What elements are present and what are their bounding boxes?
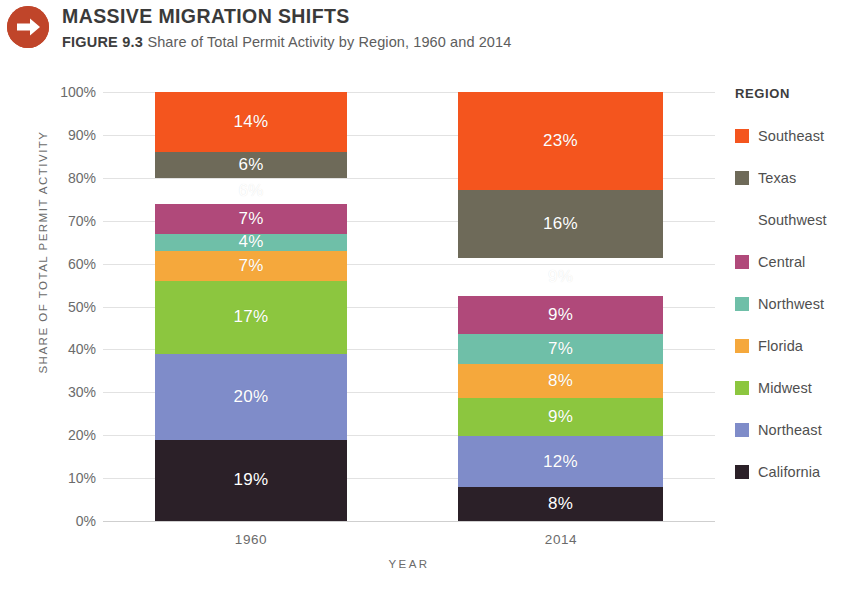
bar-segment-label: 4% [238, 232, 263, 252]
bar-segment-label: 19% [234, 470, 269, 490]
x-tick-label-2014: 2014 [461, 532, 661, 547]
legend-swatch-icon [735, 171, 749, 185]
legend-items: SoutheastTexasSouthwestCentralNorthwestF… [735, 115, 855, 493]
bar-segment-label: 12% [543, 452, 578, 472]
legend-item-central[interactable]: Central [735, 241, 855, 283]
x-axis-line [103, 521, 715, 522]
legend-swatch-icon [735, 339, 749, 353]
bar-segment-label: 9% [548, 407, 573, 427]
bar-segment-northwest-2014[interactable]: 7% [458, 334, 663, 364]
legend-item-label: Florida [758, 338, 803, 354]
bar-segment-southeast-1960[interactable]: 14% [155, 92, 347, 152]
bar-segment-label: 9% [548, 305, 573, 325]
bar-segment-northeast-1960[interactable]: 20% [155, 354, 347, 440]
bar-segment-florida-2014[interactable]: 8% [458, 364, 663, 398]
legend-item-label: Central [758, 254, 805, 270]
figure-number: FIGURE 9.3 [62, 34, 143, 50]
bar-segment-label: 16% [543, 214, 578, 234]
y-tick-label-80: 80% [50, 171, 96, 185]
y-tick-label-10: 10% [50, 471, 96, 485]
legend-item-california[interactable]: California [735, 451, 855, 493]
bar-segment-label: 17% [234, 307, 269, 327]
bar-segment-texas-1960[interactable]: 6% [155, 152, 347, 178]
figure-subtitle: FIGURE 9.3 Share of Total Permit Activit… [62, 32, 511, 52]
x-tick-label-1960: 1960 [151, 532, 351, 547]
title-block: MASSIVE MIGRATION SHIFTS FIGURE 9.3 Shar… [62, 4, 511, 52]
bar-segment-florida-1960[interactable]: 7% [155, 251, 347, 281]
legend-item-texas[interactable]: Texas [735, 157, 855, 199]
chart-plot-area: 14%6%6%7%4%7%17%20%19% 23%16%9%9%7%8%9%1… [103, 92, 715, 521]
bar-segment-label: 7% [548, 339, 573, 359]
x-axis-title: YEAR [103, 558, 715, 570]
y-tick-label-40: 40% [50, 342, 96, 356]
bar-segment-california-2014[interactable]: 8% [458, 487, 663, 521]
legend-item-label: Northeast [758, 422, 822, 438]
y-axis-title: SHARE OF TOTAL PERMIT ACTIVITY [37, 127, 49, 377]
legend-item-label: Southeast [758, 128, 824, 144]
legend-item-southwest[interactable]: Southwest [735, 199, 855, 241]
bar-segment-northeast-2014[interactable]: 12% [458, 436, 663, 487]
bar-segment-southwest-1960[interactable]: 6% [155, 178, 347, 204]
bar-segment-label: 6% [238, 181, 263, 201]
legend-item-label: California [758, 464, 820, 480]
y-tick-label-50: 50% [50, 300, 96, 314]
legend-item-label: Southwest [758, 212, 827, 228]
stacked-bar-1960[interactable]: 14%6%6%7%4%7%17%20%19% [155, 92, 347, 521]
y-tick-label-100: 100% [50, 85, 96, 99]
y-tick-label-0: 0% [50, 514, 96, 528]
legend-swatch-icon [735, 465, 749, 479]
bar-segment-label: 7% [238, 256, 263, 276]
y-tick-label-20: 20% [50, 428, 96, 442]
bar-segment-label: 9% [548, 267, 573, 287]
bar-segment-label: 8% [548, 371, 573, 391]
bar-segment-midwest-1960[interactable]: 17% [155, 281, 347, 354]
bar-segment-label: 20% [234, 387, 269, 407]
arrow-right-circle-icon [7, 6, 49, 48]
legend-swatch-icon [735, 297, 749, 311]
legend-item-label: Texas [758, 170, 796, 186]
figure-caption: Share of Total Permit Activity by Region… [147, 34, 511, 50]
legend-item-southeast[interactable]: Southeast [735, 115, 855, 157]
bar-segment-southeast-2014[interactable]: 23% [458, 92, 663, 190]
bar-segment-southwest-2014[interactable]: 9% [458, 258, 663, 296]
bar-segment-label: 14% [234, 112, 269, 132]
legend-item-northwest[interactable]: Northwest [735, 283, 855, 325]
bar-segment-texas-2014[interactable]: 16% [458, 190, 663, 258]
stacked-bar-2014[interactable]: 23%16%9%9%7%8%9%12%8% [458, 92, 663, 521]
figure-header: MASSIVE MIGRATION SHIFTS FIGURE 9.3 Shar… [0, 0, 856, 68]
legend-item-label: Midwest [758, 380, 812, 396]
legend-swatch-icon [735, 255, 749, 269]
bar-segment-label: 23% [543, 131, 578, 151]
bar-segment-label: 6% [238, 155, 263, 175]
legend-swatch-icon [735, 381, 749, 395]
bar-segment-california-1960[interactable]: 19% [155, 440, 347, 522]
page-title: MASSIVE MIGRATION SHIFTS [62, 4, 511, 28]
bar-segment-label: 7% [238, 209, 263, 229]
y-tick-label-90: 90% [50, 128, 96, 142]
legend-item-label: Northwest [758, 296, 824, 312]
legend: REGION SoutheastTexasSouthwestCentralNor… [735, 86, 855, 493]
y-tick-label-60: 60% [50, 257, 96, 271]
bar-segment-northwest-1960[interactable]: 4% [155, 234, 347, 251]
legend-swatch-icon [735, 129, 749, 143]
legend-item-northeast[interactable]: Northeast [735, 409, 855, 451]
bar-segment-label: 8% [548, 494, 573, 514]
bar-segment-central-1960[interactable]: 7% [155, 204, 347, 234]
legend-title: REGION [735, 86, 855, 101]
bar-segment-midwest-2014[interactable]: 9% [458, 398, 663, 436]
legend-swatch-icon [735, 423, 749, 437]
legend-swatch-icon [735, 213, 749, 227]
legend-item-florida[interactable]: Florida [735, 325, 855, 367]
y-tick-label-70: 70% [50, 214, 96, 228]
bar-segment-central-2014[interactable]: 9% [458, 296, 663, 334]
y-tick-label-30: 30% [50, 385, 96, 399]
legend-item-midwest[interactable]: Midwest [735, 367, 855, 409]
